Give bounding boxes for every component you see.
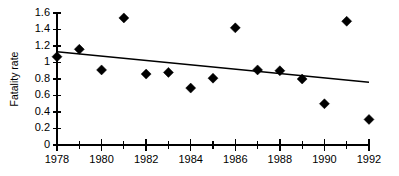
data-point-marker	[141, 69, 151, 79]
data-point-marker	[253, 65, 263, 75]
y-axis-title-group: Fatality rate	[8, 51, 20, 106]
x-tick-label: 1978	[45, 153, 69, 165]
data-point-marker	[208, 73, 218, 83]
scatter-chart: Fatality rate 00.20.40.60.811.21.41.6 19…	[0, 0, 399, 176]
x-tick-label: 1984	[178, 153, 202, 165]
y-tick-label: 0.4	[35, 105, 50, 117]
x-tick-label: 1986	[223, 153, 247, 165]
data-point-marker	[74, 44, 84, 54]
data-points-group	[52, 13, 374, 124]
x-tick-label: 1980	[89, 153, 113, 165]
data-point-marker	[163, 67, 173, 77]
data-point-marker	[186, 83, 196, 93]
y-tick-label: 0.8	[35, 72, 50, 84]
data-point-marker	[319, 99, 329, 109]
data-point-marker	[342, 16, 352, 26]
y-tick-label: 0.6	[35, 88, 50, 100]
y-tick-label: 1.6	[35, 6, 50, 18]
x-tick-label: 1992	[357, 153, 381, 165]
data-point-marker	[97, 65, 107, 75]
y-tick-label: 0.2	[35, 121, 50, 133]
x-axis-tick-labels: 19781980198219841986198819901992	[45, 153, 381, 165]
data-point-marker	[119, 13, 129, 23]
chart-canvas: Fatality rate 00.20.40.60.811.21.41.6 19…	[0, 0, 399, 176]
x-tick-label: 1982	[134, 153, 158, 165]
x-tick-label: 1988	[268, 153, 292, 165]
data-point-marker	[230, 23, 240, 33]
y-tick-label: 0	[44, 138, 50, 150]
x-tick-label: 1990	[312, 153, 336, 165]
y-tick-label: 1	[44, 55, 50, 67]
data-point-marker	[364, 114, 374, 124]
y-axis-title: Fatality rate	[8, 51, 20, 106]
data-point-marker	[52, 52, 62, 62]
y-tick-label: 1.4	[35, 22, 50, 34]
y-tick-label: 1.2	[35, 39, 50, 51]
y-axis-tick-labels: 00.20.40.60.811.21.41.6	[35, 6, 50, 150]
